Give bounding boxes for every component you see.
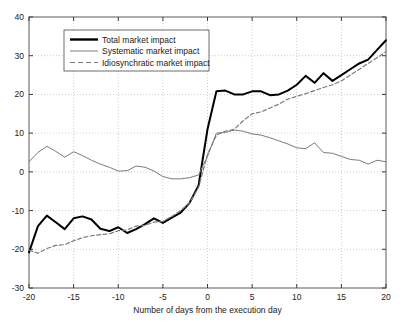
x-tick-label: 0 xyxy=(205,292,210,302)
y-tick-label: 20 xyxy=(15,89,25,99)
legend-label-1: Systematic market impact xyxy=(102,46,200,56)
line-chart: -30-20-10010203040 -20-15-10-505101520 N… xyxy=(0,0,405,326)
legend-label-2: Idiosynchratic market impact xyxy=(102,58,210,68)
legend-label-0: Total market impact xyxy=(102,35,176,45)
x-tick-label: 15 xyxy=(337,292,347,302)
y-tick-label: 40 xyxy=(15,12,25,22)
x-axis-tick-labels: -20-15-10-505101520 xyxy=(23,292,391,302)
x-tick-label: -10 xyxy=(112,292,125,302)
x-tick-label: 10 xyxy=(292,292,302,302)
x-tick-label: -5 xyxy=(159,292,167,302)
y-tick-label: -10 xyxy=(12,206,25,216)
chart-container: -30-20-10010203040 -20-15-10-505101520 N… xyxy=(0,0,405,326)
y-tick-label: 10 xyxy=(15,128,25,138)
x-tick-label: -20 xyxy=(23,292,36,302)
x-axis-title: Number of days from the execution day xyxy=(133,305,282,315)
x-tick-label: -15 xyxy=(67,292,80,302)
y-tick-label: 0 xyxy=(19,167,24,177)
x-tick-label: 5 xyxy=(250,292,255,302)
chart-legend: Total market impactSystematic market imp… xyxy=(64,30,210,71)
x-tick-label: 20 xyxy=(381,292,391,302)
y-tick-label: -20 xyxy=(12,244,25,254)
y-tick-label: 30 xyxy=(15,51,25,61)
